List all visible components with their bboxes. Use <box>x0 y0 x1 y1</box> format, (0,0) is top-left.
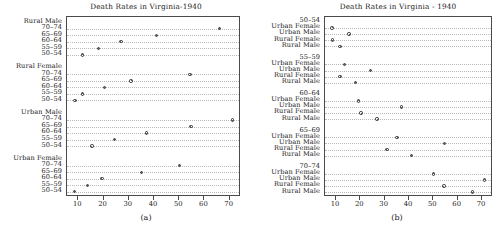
gridline <box>325 64 491 65</box>
gridline <box>325 83 491 84</box>
data-point <box>442 184 445 187</box>
data-point <box>231 118 234 121</box>
gridline <box>67 29 239 30</box>
gridline <box>325 143 491 144</box>
gridline <box>67 166 239 167</box>
gridline <box>67 172 239 173</box>
gridline <box>67 179 239 180</box>
gridline <box>67 140 239 141</box>
data-point <box>81 92 84 95</box>
axis-tick-label: 60 <box>452 200 461 208</box>
axis-tick-label: 20 <box>355 200 364 208</box>
data-point <box>90 144 93 147</box>
panel-a-title: Death Rates in Virginia-1940 <box>0 2 250 11</box>
data-point <box>432 172 435 175</box>
data-point <box>129 79 132 82</box>
gridline <box>325 156 491 157</box>
data-point <box>471 190 474 193</box>
gridline <box>67 81 239 82</box>
gridline <box>325 107 491 108</box>
gridline <box>325 101 491 102</box>
gridline <box>325 137 491 138</box>
data-point <box>375 117 378 120</box>
row-label: Rural Male <box>282 42 320 49</box>
row-label: 50–54 <box>41 96 62 103</box>
row-label: Rural Male <box>282 151 320 158</box>
gridline <box>325 40 491 41</box>
axis-tick-label: 70 <box>477 200 486 208</box>
data-point <box>189 125 192 128</box>
data-point <box>330 26 333 29</box>
axis-tick-label: 70 <box>224 200 233 208</box>
figure-virginia-death-rates: Death Rates in Virginia-1940 Rural Male7… <box>0 0 499 241</box>
panel-a-caption: (a) <box>0 213 250 222</box>
gridline <box>67 120 239 121</box>
panel-a-gridlines <box>67 17 239 195</box>
gridline <box>325 28 491 29</box>
data-point <box>86 184 89 187</box>
gridline <box>67 192 239 193</box>
gridline <box>67 55 239 56</box>
gridline <box>67 87 239 88</box>
axis-tick-label: 50 <box>174 200 183 208</box>
data-point <box>357 99 360 102</box>
data-point <box>359 111 362 114</box>
gridline <box>325 119 491 120</box>
data-point <box>145 131 148 134</box>
gridline <box>67 74 239 75</box>
axis-tick-label: 10 <box>73 200 82 208</box>
axis-tick-label: 60 <box>199 200 208 208</box>
data-point <box>103 86 106 89</box>
gridline <box>325 113 491 114</box>
gridline <box>325 46 491 47</box>
gridline <box>325 174 491 175</box>
data-point <box>73 99 76 102</box>
panel-a: Death Rates in Virginia-1940 Rural Male7… <box>0 0 250 241</box>
row-label: 50–54 <box>41 187 62 194</box>
panel-a-row-labels: Rural Male70–7465–6960–6455–5950–54Rural… <box>0 16 64 196</box>
gridline <box>67 185 239 186</box>
axis-tick-label: 30 <box>379 200 388 208</box>
row-label: 50–54 <box>41 142 62 149</box>
gridline <box>325 71 491 72</box>
axis-tick-label: 40 <box>149 200 158 208</box>
row-label: Rural Male <box>282 115 320 122</box>
data-point <box>347 32 350 35</box>
row-label: Rural Male <box>282 188 320 195</box>
data-point <box>385 148 388 151</box>
data-point <box>81 53 84 56</box>
gridline <box>325 186 491 187</box>
gridline <box>67 48 239 49</box>
panel-b-plot-area <box>324 16 492 196</box>
gridline <box>67 127 239 128</box>
axis-tick-label: 10 <box>331 200 340 208</box>
panel-b-caption: (b) <box>249 213 499 222</box>
gridline <box>325 192 491 193</box>
axis-tick-label: 40 <box>404 200 413 208</box>
gridline <box>325 77 491 78</box>
panel-b-row-labels: 50–54Urban FemaleUrban MaleRural FemaleR… <box>249 16 322 196</box>
panel-a-plot-area <box>66 16 240 196</box>
gridline <box>67 133 239 134</box>
axis-tick-label: 20 <box>98 200 107 208</box>
gridline <box>325 180 491 181</box>
gridline <box>67 42 239 43</box>
gridline <box>325 150 491 151</box>
gridline <box>67 100 239 101</box>
panel-b: Death Rates in Virginia - 1940 50–54Urba… <box>249 0 499 241</box>
gridline <box>67 35 239 36</box>
axis-tick-label: 50 <box>428 200 437 208</box>
panel-b-gridlines <box>325 17 491 195</box>
data-point <box>338 45 341 48</box>
data-point <box>395 136 398 139</box>
panel-b-title: Death Rates in Virginia - 1940 <box>249 2 499 11</box>
gridline <box>67 94 239 95</box>
data-point <box>188 73 191 76</box>
row-label: Rural Male <box>282 78 320 85</box>
axis-tick-label: 30 <box>123 200 132 208</box>
row-label: 50–54 <box>41 50 62 57</box>
